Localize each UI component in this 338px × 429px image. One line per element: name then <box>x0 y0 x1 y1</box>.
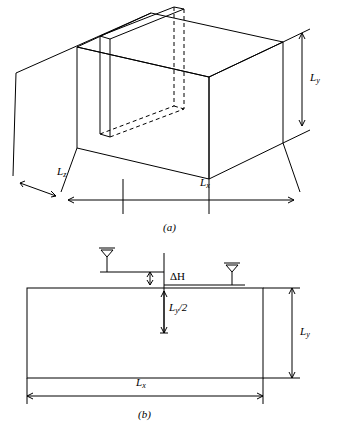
label-delta-h: ΔH <box>170 271 185 282</box>
label-lx-panel-b: Lx <box>136 377 146 390</box>
caption-panel-b: (b) <box>138 409 151 420</box>
label-lx-panel-a: Lx <box>200 177 210 190</box>
figure-drawing <box>0 0 338 429</box>
label-ly-panel-b: Ly <box>300 326 310 339</box>
block-top-face <box>77 13 283 77</box>
dim-delta-h <box>147 272 153 285</box>
block-front-face <box>77 47 209 179</box>
water-table-left-icon <box>99 248 164 272</box>
label-ly-half: Ly/2 <box>169 302 187 315</box>
label-ly-panel-a: Ly <box>310 72 320 85</box>
label-lz-panel-a: Lz <box>57 166 66 179</box>
caption-panel-a: (a) <box>163 222 176 233</box>
block-slice-outline <box>100 7 184 137</box>
figure-canvas: Ly Lz Lx (a) ΔH Ly/2 Ly Lx (b) <box>0 0 338 429</box>
block-right-face <box>209 42 283 179</box>
dim-ly-a <box>283 29 310 143</box>
dim-ly-b <box>263 288 300 378</box>
section-rectangle <box>27 288 263 378</box>
dim-lz-a <box>13 13 151 197</box>
dim-ly-half <box>161 291 167 333</box>
